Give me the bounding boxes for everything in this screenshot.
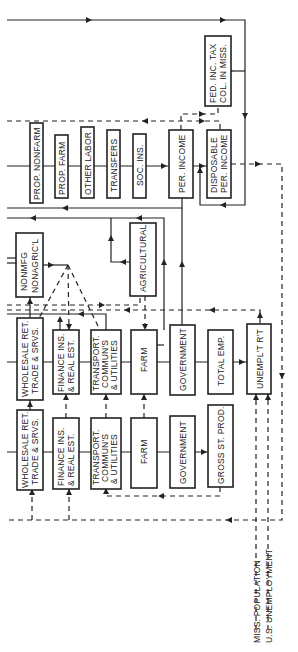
svg-text:PER. INCOME: PER. INCOME: [219, 134, 229, 193]
svg-text:FED. INC. TAX: FED. INC. TAX: [208, 43, 218, 103]
svg-text:GOVERNMENT: GOVERNMENT: [178, 328, 188, 391]
svg-text:& UTILITIES: & UTILITIES: [109, 340, 119, 390]
out-transport-box: TRANSPORT. COMMUN'S & UTILITIES: [91, 418, 121, 489]
miss-population-label: MISS. POPULATION: [252, 560, 262, 643]
svg-text:& UTILITIES: & UTILITIES: [109, 434, 119, 484]
svg-text:UNEMPL'T R'T: UNEMPL'T R'T: [255, 329, 265, 389]
svg-text:SOC. INS.: SOC. INS.: [135, 145, 145, 186]
svg-text:FARM: FARM: [139, 348, 149, 372]
svg-text:FINANCE INS.: FINANCE INS.: [56, 333, 66, 392]
other-labor-box: OTHER LABOR: [81, 127, 94, 198]
unempl-rate-box: UNEMPL'T R'T: [247, 324, 271, 394]
out-government-box: GOVERNMENT: [170, 416, 195, 488]
prop-farm-box: PROP. FARM: [55, 135, 68, 198]
svg-text:& REAL EST.: & REAL EST.: [66, 340, 76, 392]
gross-st-prod-box: GROSS ST. PROD.: [208, 405, 233, 487]
svg-text:DISPOSABLE: DISPOSABLE: [209, 137, 219, 193]
nonmfg-nonagric-box: NONMFG NONAGRIC'L: [16, 233, 43, 297]
emp-finance-box: FINANCE INS. & REAL EST.: [53, 330, 79, 394]
svg-text:GROSS ST. PROD.: GROSS ST. PROD.: [216, 406, 226, 484]
svg-text:TOTAL EMP.: TOTAL EMP.: [216, 336, 226, 386]
svg-text:WHOLESALE RET.: WHOLESALE RET.: [20, 412, 30, 489]
per-income-box: PER. INCOME: [169, 130, 193, 198]
svg-text:TRANSFERS: TRANSFERS: [109, 139, 119, 192]
svg-text:NONAGRIC'L: NONAGRIC'L: [30, 239, 40, 293]
svg-text:COL. IN MISS.: COL. IN MISS.: [218, 44, 228, 103]
out-farm-box: FARM: [131, 418, 157, 488]
prop-nonfarm-box: PROP. NONFARM: [30, 123, 43, 203]
svg-text:FARM: FARM: [139, 440, 149, 464]
out-finance-box: FINANCE INS. & REAL EST.: [53, 418, 79, 489]
svg-text:FINANCE INS.: FINANCE INS.: [56, 427, 66, 486]
svg-text:GOVERNMENT: GOVERNMENT: [178, 421, 188, 484]
emp-transport-box: TRANSPORT. COMMUN'S & UTILITIES: [91, 330, 121, 394]
svg-text:PER. INCOME: PER. INCOME: [177, 134, 187, 193]
svg-text:TRADE & SRVS.: TRADE & SRVS.: [30, 327, 40, 394]
total-emp-box: TOTAL EMP.: [208, 330, 233, 394]
svg-text:& REAL EST.: & REAL EST.: [66, 434, 76, 486]
disposable-per-income-box: DISPOSABLE PER. INCOME: [207, 130, 231, 198]
emp-wholesale-box: WHOLESALE RET. TRADE & SRVS.: [17, 318, 43, 400]
svg-text:TRADE & SRVS.: TRADE & SRVS.: [30, 418, 40, 485]
transfers-box: TRANSFERS: [107, 130, 120, 198]
flow-diagram: FED. INC. TAX COL. IN MISS. PROP. NONFAR…: [0, 0, 298, 652]
connectors: [7, 17, 285, 630]
soc-ins-box: SOC. INS.: [133, 134, 146, 198]
svg-text:OTHER LABOR: OTHER LABOR: [83, 132, 93, 195]
out-wholesale-box: WHOLESALE RET. TRADE & SRVS.: [17, 410, 43, 490]
fed-inc-tax-box: FED. INC. TAX COL. IN MISS.: [205, 36, 231, 106]
svg-text:PROP. FARM: PROP. FARM: [57, 142, 67, 195]
us-unemployment-label: U.S. UNEMPLOYMENT: [264, 549, 274, 643]
svg-text:AGRICULTURAL: AGRICULTURAL: [138, 225, 148, 292]
emp-government-box: GOVERNMENT: [170, 325, 195, 395]
svg-text:NONMFG: NONMFG: [19, 252, 29, 291]
emp-farm-box: FARM: [131, 330, 157, 394]
agricultural-box: AGRICULTURAL: [130, 223, 156, 296]
svg-text:PROP. NONFARM: PROP. NONFARM: [32, 127, 42, 200]
svg-text:WHOLESALE RET.: WHOLESALE RET.: [20, 321, 30, 398]
